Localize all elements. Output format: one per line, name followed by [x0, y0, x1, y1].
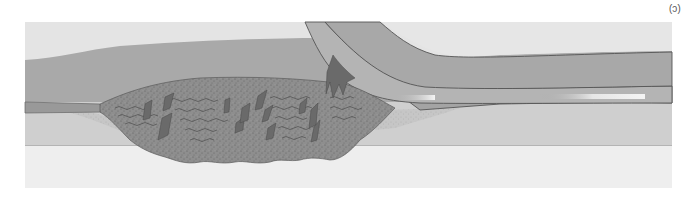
- stent-marker-1: [395, 95, 435, 100]
- artery-catheter-illustration: [0, 0, 700, 200]
- stent-marker-2: [540, 94, 645, 99]
- lumen-left: [25, 102, 105, 113]
- bottom-tissue: [25, 146, 672, 188]
